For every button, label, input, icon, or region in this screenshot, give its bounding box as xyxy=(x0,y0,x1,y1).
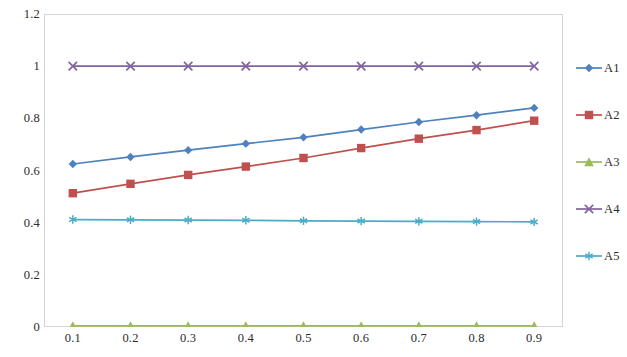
series-a2 xyxy=(69,116,539,197)
x-axis-tick-label: 0.7 xyxy=(399,331,439,345)
y-axis-tick-label: 0.8 xyxy=(0,112,40,124)
x-axis-tick-label: 0.8 xyxy=(457,331,497,345)
data-point-diamond-marker xyxy=(126,153,134,161)
legend-asterisk-icon xyxy=(575,249,603,263)
data-point-diamond-marker xyxy=(530,104,538,112)
data-point-square-marker xyxy=(299,154,307,162)
data-point-diamond-marker xyxy=(585,64,593,72)
legend-item-a2[interactable]: A2 xyxy=(575,107,627,123)
legend-x-icon xyxy=(575,202,603,216)
data-point-square-marker xyxy=(415,134,423,142)
series-a3 xyxy=(68,321,539,327)
legend-item-a5[interactable]: A5 xyxy=(575,248,627,264)
data-point-square-marker xyxy=(472,126,480,134)
chart-legend: A1A2A3A4A5 xyxy=(575,60,627,280)
x-axis-tick-label: 0.3 xyxy=(168,331,208,345)
y-axis-tick-label: 0.4 xyxy=(0,217,40,229)
data-point-square-marker xyxy=(69,189,77,197)
x-axis-tick-label: 0.2 xyxy=(111,331,151,345)
x-axis-tick-label: 0.1 xyxy=(53,331,93,345)
legend-item-a1[interactable]: A1 xyxy=(575,60,627,76)
x-axis-tick-label: 0.5 xyxy=(284,331,324,345)
data-point-diamond-marker xyxy=(242,139,250,147)
y-axis-tick-label: 0.2 xyxy=(0,269,40,281)
y-axis-tick-label: 1.2 xyxy=(0,8,40,20)
legend-diamond-icon xyxy=(575,61,603,75)
legend-triangle-icon xyxy=(575,155,603,169)
data-point-diamond-marker xyxy=(357,125,365,133)
y-axis-tick-label: 0.6 xyxy=(0,165,40,177)
data-point-square-marker xyxy=(585,111,593,119)
x-axis: 0.10.20.30.40.50.60.70.80.9 xyxy=(44,331,563,351)
data-point-square-marker xyxy=(126,180,134,188)
series-a4 xyxy=(69,62,539,70)
legend-item-a4[interactable]: A4 xyxy=(575,201,627,217)
legend-item-label: A5 xyxy=(603,249,620,263)
data-point-square-marker xyxy=(184,171,192,179)
y-axis-tick-label: 0 xyxy=(0,321,40,333)
legend-item-a3[interactable]: A3 xyxy=(575,154,627,170)
x-axis-tick-label: 0.9 xyxy=(514,331,554,345)
data-point-diamond-marker xyxy=(299,133,307,141)
legend-square-icon xyxy=(575,108,603,122)
data-point-diamond-marker xyxy=(184,146,192,154)
legend-item-label: A1 xyxy=(603,61,620,75)
legend-item-label: A4 xyxy=(603,202,620,216)
data-point-square-marker xyxy=(357,144,365,152)
legend-item-label: A3 xyxy=(603,155,620,169)
data-point-diamond-marker xyxy=(415,118,423,126)
line-chart: 00.20.40.60.811.2 0.10.20.30.40.50.60.70… xyxy=(0,0,627,357)
y-axis-tick-label: 1 xyxy=(0,60,40,72)
data-point-diamond-marker xyxy=(69,160,77,168)
series-a5 xyxy=(69,215,538,226)
x-axis-tick-label: 0.4 xyxy=(226,331,266,345)
data-point-square-marker xyxy=(530,116,538,124)
legend-item-label: A2 xyxy=(603,108,620,122)
x-axis-tick-label: 0.6 xyxy=(341,331,381,345)
data-point-square-marker xyxy=(242,162,250,170)
y-axis: 00.20.40.60.811.2 xyxy=(0,0,40,357)
plot-series-layer xyxy=(44,14,563,327)
data-point-diamond-marker xyxy=(472,111,480,119)
